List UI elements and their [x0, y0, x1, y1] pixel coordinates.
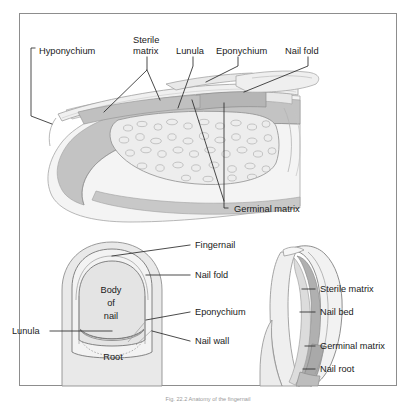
figure-caption: Fig. 22.2 Anatomy of the fingernail: [166, 396, 251, 402]
label-body-of-nail-line3: nail: [104, 311, 118, 321]
label-nail-root: Nail root: [320, 364, 355, 374]
nail-anatomy-figure: Hyponychium Sterile matrix Lunula Eponyc…: [0, 0, 417, 410]
label-eponychium-dorsal: Eponychium: [195, 307, 246, 317]
label-sterile-matrix-line2: matrix: [133, 46, 159, 56]
sagittal-panel: Hyponychium Sterile matrix Lunula Eponyc…: [31, 35, 319, 222]
nail-fold-flap: [236, 71, 319, 92]
label-nail-wall: Nail wall: [195, 336, 229, 346]
label-hyponychium: Hyponychium: [39, 46, 96, 56]
label-germinal-matrix-sagittal: Germinal matrix: [234, 204, 300, 214]
label-sterile-matrix-lateral: Sterile matrix: [320, 284, 374, 294]
figure-canvas: Hyponychium Sterile matrix Lunula Eponyc…: [0, 0, 417, 410]
label-nail-bed: Nail bed: [320, 307, 354, 317]
label-nail-fold-dorsal: Nail fold: [195, 270, 228, 280]
label-body-of-nail-line2: of: [107, 298, 115, 308]
label-fingernail: Fingernail: [195, 240, 235, 250]
label-body-of-nail-line1: Body: [101, 285, 122, 295]
hyponychium-tip: [49, 118, 56, 146]
label-lunula-dorsal: Lunula: [12, 326, 40, 336]
label-germinal-matrix-lateral: Germinal matrix: [320, 341, 385, 351]
dorsal-panel: Fingernail Nail fold Eponychium Nail wal…: [12, 240, 246, 386]
label-lunula-sagittal: Lunula: [176, 46, 205, 56]
lateral-panel: Sterile matrix Nail bed Germinal matrix …: [260, 246, 385, 386]
label-nail-fold-sagittal: Nail fold: [285, 46, 319, 56]
label-sterile-matrix-line1: Sterile: [133, 35, 159, 45]
label-eponychium-sagittal: Eponychium: [216, 46, 267, 56]
label-root: Root: [103, 352, 123, 362]
